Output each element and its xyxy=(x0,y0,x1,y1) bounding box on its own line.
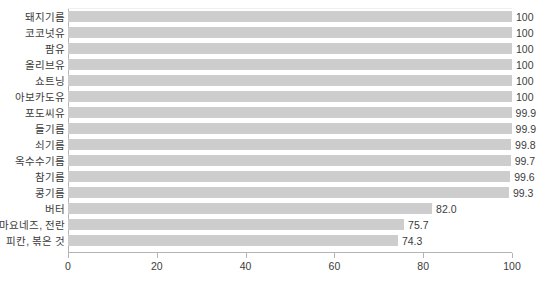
category-label: 팜유 xyxy=(45,41,65,57)
bar xyxy=(68,11,512,22)
bar xyxy=(68,219,404,230)
category-label: 쇼트닝 xyxy=(35,73,65,89)
category-label: 포도씨유 xyxy=(25,105,65,121)
value-label: 100 xyxy=(516,9,534,25)
x-axis-tick-label: 60 xyxy=(329,260,341,272)
value-label: 82.0 xyxy=(436,201,456,217)
x-axis-tick xyxy=(512,253,513,258)
category-label: 마요네즈, 전란 xyxy=(0,217,65,233)
value-label: 100 xyxy=(516,89,534,105)
category-label: 코코넛유 xyxy=(25,25,65,41)
x-axis-tick xyxy=(68,253,69,258)
bar xyxy=(68,235,398,246)
category-label: 쇠기름 xyxy=(35,137,65,153)
category-label: 돼지기름 xyxy=(25,9,65,25)
x-axis-tick-label: 20 xyxy=(151,260,163,272)
bar-row: 아보카도유100 xyxy=(68,89,512,105)
x-axis-tick xyxy=(423,253,424,258)
x-axis-tick-label: 80 xyxy=(417,260,429,272)
value-label: 99.8 xyxy=(515,137,535,153)
bar-row: 참기름99.6 xyxy=(68,169,512,185)
value-label: 100 xyxy=(516,41,534,57)
x-axis-tick xyxy=(246,253,247,258)
category-label: 들기름 xyxy=(35,121,65,137)
x-axis-tick xyxy=(334,253,335,258)
bar xyxy=(68,203,432,214)
value-label: 99.3 xyxy=(513,185,533,201)
category-label: 피칸, 볶은 것 xyxy=(6,233,65,249)
bar xyxy=(68,59,512,70)
value-label: 74.3 xyxy=(402,233,422,249)
category-label: 버터 xyxy=(45,201,65,217)
bar-row: 들기름99.9 xyxy=(68,121,512,137)
bar xyxy=(68,187,509,198)
bar xyxy=(68,107,512,118)
bar xyxy=(68,43,512,54)
bar xyxy=(68,139,511,150)
category-label: 콩기름 xyxy=(35,185,65,201)
value-label: 100 xyxy=(516,57,534,73)
value-label: 100 xyxy=(516,25,534,41)
bar xyxy=(68,27,512,38)
bar-row: 돼지기름100 xyxy=(68,9,512,25)
bar xyxy=(68,91,512,102)
value-label: 100 xyxy=(516,73,534,89)
value-label: 99.6 xyxy=(514,169,534,185)
bar-row: 포도씨유99.9 xyxy=(68,105,512,121)
value-label: 99.7 xyxy=(515,153,535,169)
bar xyxy=(68,75,512,86)
bar-chart: 돼지기름100코코넛유100팜유100올리브유100쇼트닝100아보카도유100… xyxy=(0,0,556,285)
bar-row: 버터82.0 xyxy=(68,201,512,217)
value-label: 75.7 xyxy=(408,217,428,233)
bar-row: 올리브유100 xyxy=(68,57,512,73)
bar-row: 코코넛유100 xyxy=(68,25,512,41)
category-label: 아보카도유 xyxy=(15,89,65,105)
plot-area: 돼지기름100코코넛유100팜유100올리브유100쇼트닝100아보카도유100… xyxy=(68,9,512,252)
bar xyxy=(68,123,512,134)
x-axis-tick-label: 40 xyxy=(240,260,252,272)
x-axis-tick-label: 100 xyxy=(503,260,521,272)
x-axis-line xyxy=(68,252,512,253)
category-label: 참기름 xyxy=(35,169,65,185)
bar-row: 팜유100 xyxy=(68,41,512,57)
value-label: 99.9 xyxy=(516,105,536,121)
x-axis-tick-label: 0 xyxy=(65,260,71,272)
category-label: 옥수수기름 xyxy=(15,153,65,169)
bar-row: 쇼트닝100 xyxy=(68,73,512,89)
bar xyxy=(68,155,511,166)
x-axis-tick xyxy=(157,253,158,258)
category-label: 올리브유 xyxy=(25,57,65,73)
value-label: 99.9 xyxy=(516,121,536,137)
bar-row: 콩기름99.3 xyxy=(68,185,512,201)
bar-row: 쇠기름99.8 xyxy=(68,137,512,153)
bar-row: 옥수수기름99.7 xyxy=(68,153,512,169)
bar xyxy=(68,171,510,182)
bar-rows: 돼지기름100코코넛유100팜유100올리브유100쇼트닝100아보카도유100… xyxy=(68,9,512,249)
bar-row: 마요네즈, 전란75.7 xyxy=(68,217,512,233)
bar-row: 피칸, 볶은 것74.3 xyxy=(68,233,512,249)
